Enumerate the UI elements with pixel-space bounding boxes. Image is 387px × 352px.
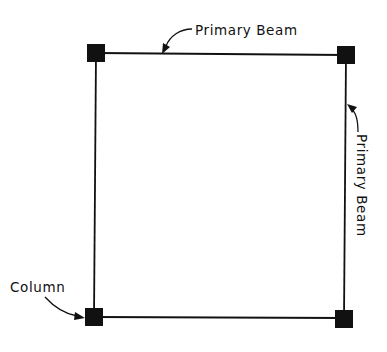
column-bottom-right (335, 310, 353, 328)
column-bottom-left (85, 308, 103, 326)
label-top-beam: Primary Beam (195, 22, 298, 38)
label-column: Column (10, 279, 65, 295)
leader-column (45, 297, 77, 316)
column-top-right (337, 46, 355, 64)
beam-right (344, 55, 346, 318)
arrowhead-right-beam (347, 104, 357, 113)
label-right-beam: Primary Beam (354, 134, 370, 237)
arrowhead-column (74, 312, 85, 320)
leader-top-beam (166, 29, 192, 46)
beam-bottom (94, 317, 344, 318)
beam-left (94, 53, 96, 317)
beam-top (96, 53, 346, 55)
column-top-left (87, 44, 105, 62)
framing-diagram: Primary Beam Primary Beam Column (0, 0, 387, 352)
